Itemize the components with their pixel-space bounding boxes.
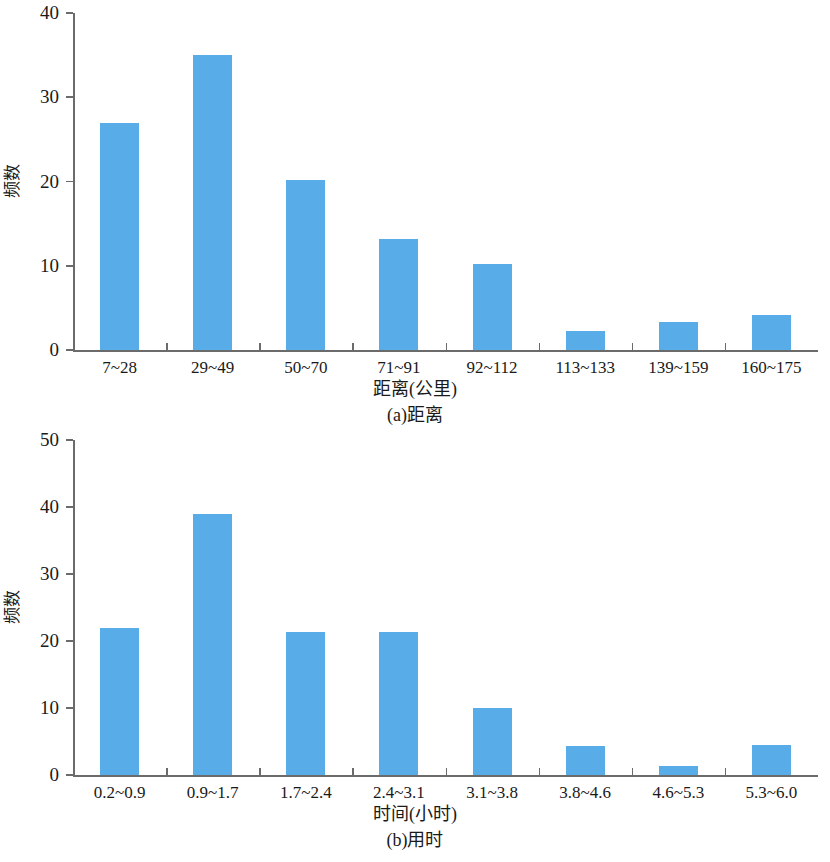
x-tick-time-7: [725, 768, 727, 775]
bar-time-1: [193, 514, 232, 775]
bar-distance-2: [286, 180, 325, 350]
x-tick-time-6: [632, 768, 634, 775]
bar-time-7: [752, 745, 791, 775]
bar-time-4: [473, 708, 512, 775]
y-tick-label-distance-40: 40: [7, 3, 59, 22]
bar-distance-6: [659, 322, 698, 350]
x-axis-line-time: [73, 775, 818, 777]
y-tick-time-40: [66, 506, 73, 508]
x-tick-distance-6: [632, 343, 634, 350]
y-tick-distance-30: [66, 96, 73, 98]
bar-distance-5: [566, 331, 605, 350]
x-tick-distance-5: [539, 343, 541, 350]
y-tick-label-distance-0: 0: [7, 340, 59, 359]
bar-time-3: [379, 632, 418, 775]
bar-time-5: [566, 746, 605, 775]
x-tick-distance-7: [725, 343, 727, 350]
y-tick-label-time-40: 40: [7, 497, 59, 516]
y-tick-label-distance-30: 30: [7, 87, 59, 106]
y-tick-label-distance-10: 10: [7, 256, 59, 275]
y-axis-line-distance: [73, 13, 75, 351]
figure-page: 010203040频数7~2829~4950~7071~9192~112113~…: [0, 0, 830, 862]
y-axis-title-distance: 频数: [0, 152, 23, 208]
x-axis-line-distance: [73, 350, 818, 352]
x-tick-time-2: [259, 768, 261, 775]
bar-time-2: [286, 632, 325, 775]
y-tick-time-20: [66, 640, 73, 642]
x-tick-time-3: [352, 768, 354, 775]
y-tick-time-50: [66, 439, 73, 441]
y-tick-distance-0: [66, 349, 73, 351]
bar-time-6: [659, 766, 698, 775]
y-tick-time-30: [66, 573, 73, 575]
y-tick-time-10: [66, 707, 73, 709]
y-tick-label-time-10: 10: [7, 698, 59, 717]
x-tick-time-1: [166, 768, 168, 775]
panel-caption-time: (b)用时: [0, 825, 830, 851]
y-axis-title-time: 频数: [0, 578, 23, 634]
y-tick-label-time-50: 50: [7, 430, 59, 449]
bar-time-0: [100, 628, 139, 775]
x-axis-title-time: 时间(小时): [0, 799, 830, 825]
bar-distance-0: [100, 123, 139, 350]
y-axis-line-time: [73, 440, 75, 776]
plot-area-time: 01020304050频数0.2~0.90.9~1.71.7~2.42.4~3.…: [0, 425, 830, 862]
y-tick-time-0: [66, 774, 73, 776]
x-tick-distance-4: [446, 343, 448, 350]
bar-distance-3: [379, 239, 418, 350]
y-tick-label-time-0: 0: [7, 765, 59, 784]
bar-distance-7: [752, 315, 791, 350]
bar-distance-4: [473, 264, 512, 350]
plot-area-distance: 010203040频数7~2829~4950~7071~9192~112113~…: [0, 0, 830, 430]
panel-caption-distance: (a)距离: [0, 400, 830, 426]
x-tick-time-5: [539, 768, 541, 775]
chart-panel-distance: 010203040频数7~2829~4950~7071~9192~112113~…: [0, 0, 830, 430]
bar-distance-1: [193, 55, 232, 350]
y-tick-distance-40: [66, 12, 73, 14]
x-tick-distance-2: [259, 343, 261, 350]
y-tick-distance-10: [66, 265, 73, 267]
x-tick-time-4: [446, 768, 448, 775]
chart-panel-time: 01020304050频数0.2~0.90.9~1.71.7~2.42.4~3.…: [0, 425, 830, 862]
x-tick-distance-3: [352, 343, 354, 350]
x-tick-distance-1: [166, 343, 168, 350]
y-tick-distance-20: [66, 181, 73, 183]
x-axis-title-distance: 距离(公里): [0, 374, 830, 400]
